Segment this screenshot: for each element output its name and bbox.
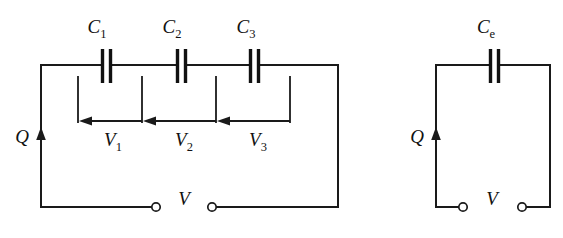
capacitor-c3 — [251, 49, 259, 83]
series-capacitor-circuit: C1 C2 C3 V1 — [15, 16, 338, 211]
capacitor-c2 — [178, 49, 186, 83]
capacitor-ce — [491, 49, 499, 83]
charge-arrow-right — [431, 127, 441, 140]
circuit-svg: C1 C2 C3 V1 — [0, 0, 563, 238]
circuit-diagram-figure: C1 C2 C3 V1 — [0, 0, 563, 238]
charge-arrow-left — [36, 127, 46, 140]
voltage-arrow-v1 — [79, 117, 142, 126]
voltage-label-v3: V3 — [249, 129, 267, 154]
voltage-arrow-v2-head — [143, 117, 156, 126]
probe-lines-group — [78, 76, 290, 123]
voltage-label-v2: V2 — [175, 129, 193, 154]
voltage-arrow-v3-head — [217, 117, 230, 126]
capacitor-c2-label: C2 — [163, 16, 182, 41]
voltage-arrow-v2 — [143, 117, 216, 126]
source-voltage-label-left: V — [178, 188, 192, 209]
capacitor-c3-label: C3 — [237, 16, 256, 41]
eq-source-terminal-left — [459, 203, 467, 211]
source-terminal-right — [208, 203, 216, 211]
capacitor-c1-label: C1 — [88, 16, 107, 41]
source-voltage-label-right: V — [486, 188, 500, 209]
voltage-arrow-v3 — [217, 117, 290, 126]
eq-source-terminal-right — [518, 203, 526, 211]
capacitor-ce-label: Ce — [477, 16, 496, 41]
equivalent-capacitor-circuit: Ce Q V — [410, 16, 550, 211]
charge-arrow-right-head — [431, 127, 441, 140]
source-terminal-left — [152, 203, 160, 211]
charge-label-left: Q — [15, 126, 29, 147]
voltage-arrow-v1-head — [79, 117, 92, 126]
voltage-label-v1: V1 — [104, 129, 122, 154]
charge-arrow-left-head — [36, 127, 46, 140]
capacitor-c1 — [103, 49, 111, 83]
charge-label-right: Q — [410, 126, 424, 147]
